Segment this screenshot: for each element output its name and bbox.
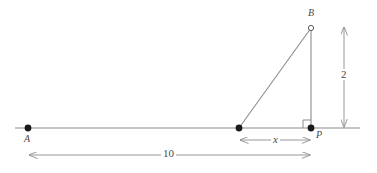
point-b-open-circle [308,25,313,30]
point-label-b: B [308,8,314,18]
point-p-dot [308,125,315,132]
point-label-a: A [24,134,30,144]
dimension-label-x: x [271,134,280,145]
point-label-p: P [316,130,322,140]
dimension-label-2: 2 [339,69,349,80]
point-vertex-dot [236,125,243,132]
point-a-dot [25,125,32,132]
hypotenuse-segment [239,28,311,128]
geometry-canvas [0,0,377,173]
geometry-diagram: A B P x 10 2 [0,0,377,173]
dimension-label-10: 10 [161,148,176,159]
